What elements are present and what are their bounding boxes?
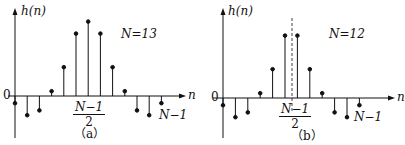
stem-dot bbox=[283, 34, 287, 38]
panel-b: h(n) n 0 N=12 N−1 2 N−1 （b） bbox=[201, 0, 402, 145]
stem-dot bbox=[345, 115, 349, 119]
x-axis-label: n bbox=[397, 91, 405, 103]
stem-dot bbox=[86, 20, 90, 24]
caption-b: （b） bbox=[291, 126, 323, 143]
stem-dot bbox=[308, 67, 312, 71]
stem-dot bbox=[246, 111, 250, 115]
origin-label: 0 bbox=[3, 89, 11, 101]
panel-a: h(n) n 0 N=13 N−1 2 N−1 （a） bbox=[0, 0, 201, 145]
stem-dot bbox=[62, 65, 66, 69]
stem-dot bbox=[111, 65, 115, 69]
stem-dot bbox=[160, 101, 164, 105]
stem-dot bbox=[99, 32, 103, 36]
x-axis-label: n bbox=[188, 89, 196, 101]
end-index-label: N−1 bbox=[354, 111, 382, 123]
stem-dot bbox=[135, 109, 139, 113]
stem-dot bbox=[50, 89, 54, 93]
stem-dot bbox=[123, 89, 127, 93]
stem-dot bbox=[258, 91, 262, 95]
stem-dot bbox=[333, 111, 337, 115]
stem-dot bbox=[320, 91, 324, 95]
origin-label: 0 bbox=[211, 91, 219, 103]
y-axis-label: h(n) bbox=[21, 5, 46, 17]
n-value-label: N=12 bbox=[329, 28, 365, 40]
stem-dot bbox=[358, 103, 362, 107]
stem-dot bbox=[147, 113, 151, 117]
y-axis-label: h(n) bbox=[228, 5, 253, 17]
end-index-label: N−1 bbox=[159, 109, 187, 121]
stem-dot bbox=[74, 32, 78, 36]
stem-dot bbox=[221, 103, 225, 107]
stem-dot bbox=[296, 34, 300, 38]
stem-dot bbox=[271, 67, 275, 71]
caption-a: （a） bbox=[74, 124, 105, 141]
stem-dot bbox=[25, 113, 29, 117]
stem-dot bbox=[13, 101, 17, 105]
stem-dot bbox=[234, 115, 238, 119]
stem-dot bbox=[38, 109, 42, 113]
n-value-label: N=13 bbox=[121, 28, 157, 40]
